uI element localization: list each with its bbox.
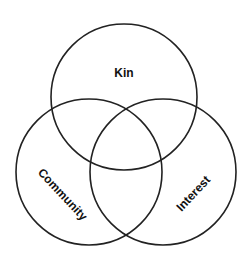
kin-circle: [51, 24, 197, 170]
venn-diagram: Kin Community Interest: [0, 0, 251, 267]
kin-label: Kin: [114, 66, 133, 80]
venn-canvas: Kin Community Interest: [0, 0, 251, 267]
community-label: Community: [35, 166, 90, 224]
interest-label: Interest: [173, 173, 213, 214]
interest-circle: [90, 99, 236, 245]
